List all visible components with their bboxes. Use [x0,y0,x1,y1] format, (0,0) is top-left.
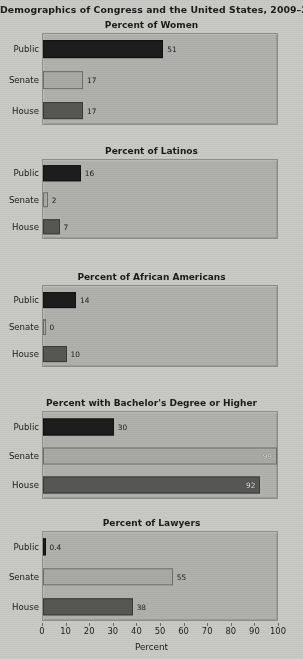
bar-row: Senate55 [43,562,277,592]
bar-house [43,598,133,615]
bar-value-label: 0 [50,322,55,331]
chart-panel-title: Percent of African Americans [0,272,303,282]
bar-value-label: 99 [263,451,272,460]
plot-area: Public30Senate99House92 [42,411,278,499]
bar-senate [43,568,173,585]
category-label-senate: Senate [9,75,39,85]
bar-value-label: 55 [177,573,186,582]
chart-panel: Percent with Bachelor's Degree or Higher… [0,398,303,499]
category-label-public: Public [14,44,39,54]
chart-panel-title: Percent with Bachelor's Degree or Higher [0,398,303,408]
category-label-house: House [12,602,39,612]
bar-row: House17 [43,95,277,126]
bar-row: House10 [43,341,277,368]
axis-tick-label: 30 [107,626,118,636]
bar-row: Public30 [43,412,277,441]
bar-value-label: 10 [71,350,80,359]
chart-panel: Percent of African AmericansPublic14Sena… [0,272,303,367]
chart-panel-title: Percent of Latinos [0,146,303,156]
bar-public [43,538,46,555]
bar-senate [43,447,277,464]
chart-panel: Percent of LawyersPublic0.4Senate55House… [0,518,303,621]
axis-tick-label: 50 [155,626,166,636]
category-label-house: House [12,349,39,359]
bar-public [43,292,76,308]
axis-tick-label: 20 [84,626,95,636]
bar-value-label: 2 [52,195,57,204]
plot-area: Public16Senate2House7 [42,159,278,239]
bar-row: House7 [43,213,277,240]
category-label-house: House [12,106,39,116]
bar-public [43,40,163,58]
bar-value-label: 17 [87,75,96,84]
category-label-senate: Senate [9,322,39,332]
bar-senate [43,319,46,335]
figure-root: Demographics of Congress and the United … [0,0,303,659]
bar-row: Senate17 [43,65,277,96]
bar-row: Public51 [43,34,277,65]
axis-tick-label: 10 [60,626,71,636]
bar-value-label: 0.4 [50,543,62,552]
bar-value-label: 16 [85,169,94,178]
bar-row: Public16 [43,160,277,187]
category-label-house: House [12,222,39,232]
bar-house [43,346,67,362]
axis-tick-label: 100 [270,626,286,636]
bar-house [43,102,83,120]
category-label-public: Public [14,168,39,178]
x-axis: 0102030405060708090100 [42,623,278,639]
bar-value-label: 38 [137,603,146,612]
axis-tick-label: 90 [249,626,260,636]
category-label-senate: Senate [9,451,39,461]
chart-panel: Percent of WomenPublic51Senate17House17 [0,20,303,125]
bar-value-label: 51 [167,45,176,54]
axis-tick-label: 70 [202,626,213,636]
bar-row: Public0.4 [43,532,277,562]
axis-tick-label: 0 [39,626,44,636]
bar-row: House38 [43,592,277,622]
bar-row: Senate99 [43,441,277,470]
bar-row: Senate0 [43,313,277,340]
bar-public [43,166,81,181]
x-axis-title: Percent [0,642,303,652]
bar-senate [43,71,83,89]
bar-value-label: 17 [87,106,96,115]
bar-senate [43,192,48,207]
bar-value-label: 30 [118,422,127,431]
plot-area: Public0.4Senate55House38 [42,531,278,621]
axis-tick-label: 80 [225,626,236,636]
category-label-senate: Senate [9,195,39,205]
category-label-public: Public [14,542,39,552]
plot-area: Public51Senate17House17 [42,33,278,125]
bar-house [43,219,60,234]
axis-tick-label: 40 [131,626,142,636]
category-label-public: Public [14,295,39,305]
bar-value-label: 14 [80,295,89,304]
axis-tick-label: 60 [178,626,189,636]
bar-public [43,418,114,435]
category-label-house: House [12,480,39,490]
bar-house [43,477,260,494]
chart-panel-title: Percent of Women [0,20,303,30]
bar-value-label: 7 [64,222,69,231]
chart-panel-title: Percent of Lawyers [0,518,303,528]
category-label-senate: Senate [9,572,39,582]
bar-row: House92 [43,471,277,500]
chart-panel: Percent of LatinosPublic16Senate2House7 [0,146,303,239]
plot-area: Public14Senate0House10 [42,285,278,367]
bar-row: Public14 [43,286,277,313]
figure-title: Demographics of Congress and the United … [0,4,303,15]
bar-row: Senate2 [43,187,277,214]
bar-value-label: 92 [246,481,255,490]
category-label-public: Public [14,422,39,432]
